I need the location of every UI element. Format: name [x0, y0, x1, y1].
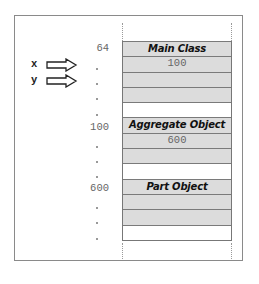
memory-cell — [123, 194, 231, 209]
right-dotted-guide-top — [231, 23, 232, 41]
pointer-arrow-icon — [46, 58, 78, 72]
memory-cell-main-class: Main Class — [123, 41, 231, 56]
address-dot — [96, 176, 98, 178]
variable-x-label: x — [31, 58, 37, 70]
address-label-100: 100 — [59, 121, 109, 134]
address-label-600: 600 — [59, 182, 109, 195]
memory-cell — [123, 148, 231, 163]
left-dotted-guide-top — [122, 23, 123, 41]
left-dotted-guide-bottom — [122, 243, 123, 259]
memory-cell: 600 — [123, 133, 231, 148]
memory-cell — [123, 209, 231, 224]
memory-cell-aggregate-object: Aggregate Object — [123, 117, 231, 132]
address-dot — [96, 222, 98, 224]
memory-cell — [123, 225, 231, 240]
right-dotted-guide-bottom — [231, 243, 232, 259]
address-dot — [96, 68, 98, 70]
memory-column: Main Class 100 Aggregate Object 600 Part… — [122, 41, 232, 241]
address-dot — [96, 207, 98, 209]
address-label-64: 64 — [59, 42, 109, 55]
variable-y-label: y — [31, 74, 37, 86]
memory-cell — [123, 72, 231, 87]
memory-cell — [123, 102, 231, 117]
address-dot — [96, 83, 98, 85]
address-dot — [96, 98, 98, 100]
memory-cell: 100 — [123, 56, 231, 71]
pointer-arrow-icon — [46, 74, 78, 88]
address-dot — [96, 114, 98, 116]
memory-cell — [123, 163, 231, 178]
memory-cell — [123, 87, 231, 102]
address-dot — [96, 238, 98, 240]
memory-cell-part-object: Part Object — [123, 179, 231, 194]
address-dot — [96, 146, 98, 148]
address-dot — [96, 161, 98, 163]
